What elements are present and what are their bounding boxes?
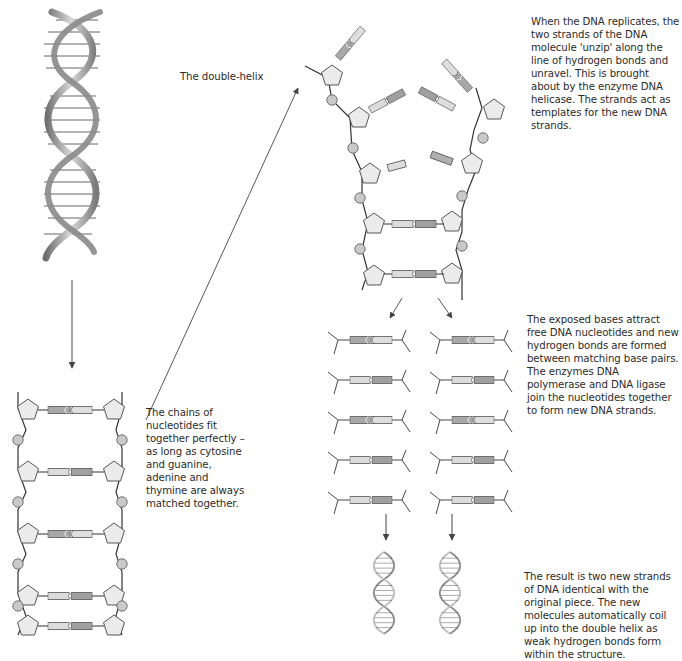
double-helix-illustration xyxy=(44,12,100,258)
caption-result: The result is two new strands of DNA ide… xyxy=(524,570,682,661)
base-pair-gc xyxy=(48,407,92,414)
arrow-right-strand xyxy=(438,298,452,318)
caption-unzip: When the DNA replicates, the two strands… xyxy=(531,15,681,132)
double-helix-label: The double-helix xyxy=(180,70,263,83)
nucleotide-ladder xyxy=(13,392,127,635)
caption-pairing: The chains of nucleotides fit together p… xyxy=(146,406,250,510)
base-pair-at xyxy=(48,469,92,476)
arrow-left-strand xyxy=(390,298,402,318)
unzipping-molecule xyxy=(305,26,505,300)
base-pair-ta xyxy=(48,593,92,600)
caption-synthesis: The exposed bases attract free DNA nucle… xyxy=(527,313,679,417)
new-helix-left xyxy=(374,552,394,634)
base-pair-at xyxy=(48,623,92,630)
base-pair-cg xyxy=(48,531,92,538)
new-helix-right xyxy=(440,552,460,634)
new-strand-base-pairs xyxy=(350,337,494,504)
arrow-to-unzip xyxy=(146,88,298,420)
